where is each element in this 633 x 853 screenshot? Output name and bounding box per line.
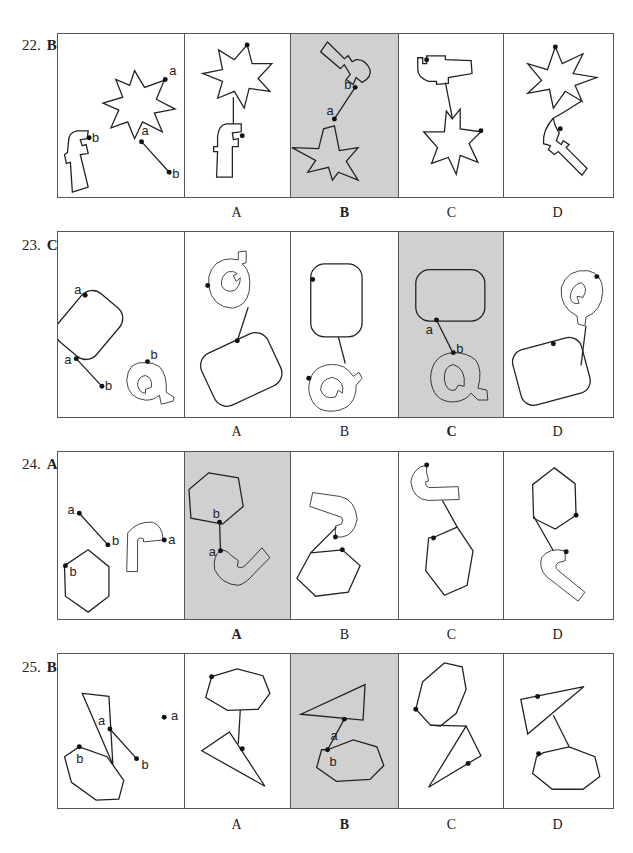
question-number: 24.: [22, 456, 41, 472]
question-answer: C: [47, 237, 58, 253]
q22-option-d[interactable]: [503, 34, 613, 197]
q22-option-c[interactable]: [398, 34, 504, 197]
q25-option-d-figure: [504, 654, 613, 808]
svg-text:b: b: [172, 166, 179, 181]
svg-text:b: b: [92, 130, 99, 145]
q23-option-c-label[interactable]: C: [398, 424, 505, 440]
svg-text:a: a: [74, 282, 82, 297]
question-number: 25.: [22, 659, 41, 675]
question-answer: B: [47, 37, 57, 53]
svg-text:a: a: [169, 63, 177, 78]
q25-given-figure: abba: [58, 654, 184, 808]
q25-given: abba: [58, 654, 184, 808]
q22-option-a[interactable]: [184, 34, 291, 197]
q25-option-b-figure: ab: [291, 654, 398, 808]
q24-option-a[interactable]: ba: [184, 452, 291, 619]
q22-option-a-figure: [185, 34, 291, 197]
q25-option-b[interactable]: ab: [290, 654, 398, 808]
svg-text:b: b: [69, 564, 76, 579]
question-24-label: 24.A: [22, 456, 58, 473]
q24-option-d-label[interactable]: D: [504, 627, 611, 643]
question-number: 23.: [22, 237, 41, 253]
q23-option-d-label[interactable]: D: [504, 424, 611, 440]
q23-option-a-figure: [185, 232, 291, 417]
question-number: 22.: [22, 37, 41, 53]
q22-option-b-figure: ab: [291, 34, 398, 197]
q23-given: aabb: [58, 232, 184, 417]
svg-text:b: b: [330, 754, 337, 769]
q23-given-figure: aabb: [58, 232, 184, 417]
q22-option-d-label[interactable]: D: [504, 205, 611, 221]
q23-option-b-label[interactable]: B: [291, 424, 398, 440]
q23-option-b-figure: [291, 232, 398, 417]
svg-text:a: a: [67, 502, 75, 517]
svg-text:b: b: [76, 751, 83, 766]
q22-given-figure: ab ab: [58, 34, 184, 197]
q23-option-c[interactable]: ab: [398, 232, 504, 417]
q25-option-b-label[interactable]: B: [291, 817, 398, 833]
svg-text:a: a: [171, 708, 179, 723]
q22-option-a-label[interactable]: A: [183, 205, 290, 221]
q22-option-d-figure: [504, 34, 613, 197]
q24-option-a-figure: ba: [185, 452, 291, 619]
question-22-label: 22.B: [22, 37, 57, 54]
svg-text:b: b: [142, 757, 149, 772]
svg-text:a: a: [64, 352, 72, 367]
q23-option-d[interactable]: [503, 232, 613, 417]
q23-option-a[interactable]: [184, 232, 291, 417]
question-25-figures: abba ab: [57, 653, 614, 809]
svg-text:b: b: [112, 533, 119, 548]
svg-text:a: a: [142, 123, 150, 138]
svg-text:b: b: [212, 506, 219, 521]
q22-given: ab ab: [58, 34, 184, 197]
svg-text:a: a: [425, 322, 433, 337]
q24-option-b-label[interactable]: B: [291, 627, 398, 643]
q25-option-c-figure: [399, 654, 504, 808]
q25-option-d-label[interactable]: D: [504, 817, 611, 833]
q23-option-b[interactable]: [290, 232, 398, 417]
question-answer: A: [47, 456, 58, 472]
svg-text:b: b: [150, 347, 157, 362]
q22-option-c-label[interactable]: C: [398, 205, 505, 221]
question-23-label: 23.C: [22, 237, 58, 254]
q24-option-d-figure: [504, 452, 613, 619]
q25-option-c[interactable]: [398, 654, 504, 808]
svg-text:a: a: [168, 532, 176, 547]
q24-given-figure: abba: [58, 452, 184, 619]
q23-option-c-figure: ab: [399, 232, 504, 417]
q23-option-d-figure: [504, 232, 613, 417]
q25-option-c-label[interactable]: C: [398, 817, 505, 833]
svg-text:b: b: [456, 341, 463, 356]
q24-option-b-figure: [291, 452, 398, 619]
q25-option-a[interactable]: [184, 654, 291, 808]
svg-text:a: a: [98, 713, 106, 728]
svg-text:a: a: [208, 544, 216, 559]
svg-text:a: a: [327, 103, 335, 118]
q22-option-c-figure: [399, 34, 504, 197]
question-24-figures: abba ba: [57, 451, 614, 620]
question-22-figures: ab ab ab: [57, 33, 614, 198]
q24-option-c-label[interactable]: C: [398, 627, 505, 643]
q24-option-c[interactable]: [398, 452, 504, 619]
svg-text:b: b: [344, 77, 351, 92]
q22-option-b-label[interactable]: B: [291, 205, 398, 221]
q24-option-a-label[interactable]: A: [183, 627, 290, 643]
q22-option-b[interactable]: ab: [290, 34, 398, 197]
q24-given: abba: [58, 452, 184, 619]
q23-option-a-label[interactable]: A: [183, 424, 290, 440]
question-23-figures: aabb: [57, 231, 614, 418]
q25-option-d[interactable]: [503, 654, 613, 808]
q24-option-b[interactable]: [290, 452, 398, 619]
q24-option-c-figure: [399, 452, 504, 619]
svg-text:b: b: [105, 378, 112, 393]
q24-option-d[interactable]: [503, 452, 613, 619]
q25-option-a-figure: [185, 654, 291, 808]
question-answer: B: [47, 659, 57, 675]
q25-option-a-label[interactable]: A: [183, 817, 290, 833]
svg-text:a: a: [331, 728, 339, 743]
question-25-label: 25.B: [22, 659, 57, 676]
